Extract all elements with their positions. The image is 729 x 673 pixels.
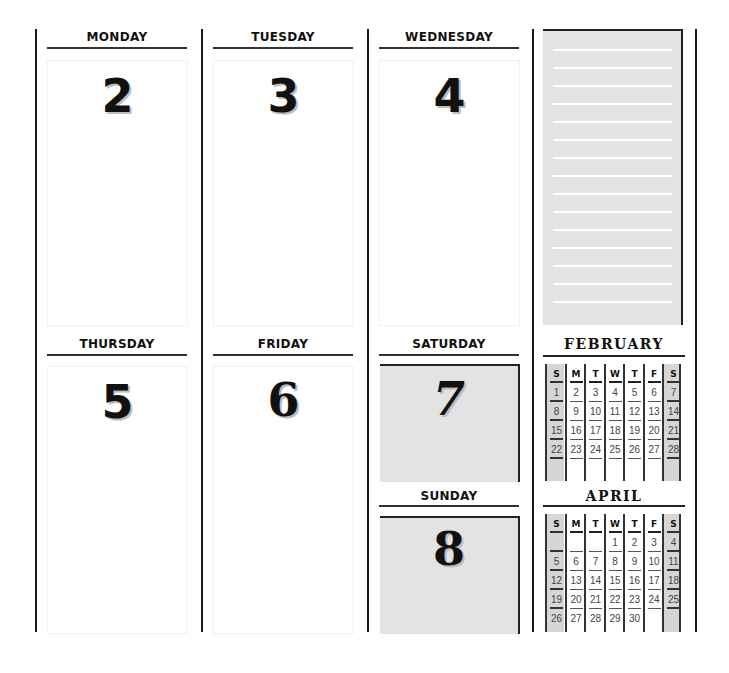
date-cell: 23 — [627, 592, 642, 611]
day-writing-area[interactable]: 4 — [379, 60, 520, 326]
date-label: 19 — [551, 594, 562, 605]
day-rule — [213, 47, 353, 49]
date-label: 19 — [629, 425, 640, 436]
date-underline — [628, 420, 641, 421]
date-underline — [589, 608, 602, 609]
month-rule — [543, 355, 685, 357]
date-cell: 1 — [608, 535, 623, 554]
notes-panel[interactable] — [543, 29, 683, 325]
month-title-april: april — [543, 482, 685, 506]
date-underline — [589, 458, 602, 459]
weekday-label: F — [651, 369, 657, 379]
notes-rule-line — [553, 49, 672, 51]
mini-calendar-column: T3101724 — [584, 364, 603, 481]
mini-calendar-column: F6132027 — [643, 364, 662, 481]
date-underline — [550, 381, 563, 383]
date-label: 2 — [632, 537, 638, 548]
mini-calendar-column: S7142128 — [662, 364, 681, 481]
date-cell: 26 — [549, 611, 564, 630]
date-underline — [648, 401, 661, 402]
weekday-header: M — [569, 516, 584, 535]
date-underline — [570, 420, 583, 421]
date-cell: 7 — [588, 554, 603, 573]
date-cell: 18 — [666, 573, 681, 592]
date-label: 17 — [590, 425, 601, 436]
date-cell — [569, 535, 584, 554]
weekday-label: F — [651, 519, 657, 529]
date-cell: 16 — [627, 573, 642, 592]
date-underline — [609, 551, 622, 552]
date-cell: 20 — [569, 592, 584, 611]
date-label: 16 — [570, 425, 581, 436]
date-underline — [589, 589, 602, 590]
date-label: 8 — [612, 556, 618, 567]
date-underline — [628, 589, 641, 590]
weekday-label: W — [610, 519, 620, 529]
date-underline — [648, 589, 661, 590]
date-underline — [609, 439, 622, 440]
day-writing-area[interactable]: 2 — [47, 60, 188, 326]
date-cell: 4 — [608, 385, 623, 404]
weekday-header: S — [666, 516, 681, 535]
date-label: 13 — [570, 575, 581, 586]
date-underline — [667, 419, 680, 421]
day-writing-area[interactable]: 6 — [213, 366, 354, 634]
weekday-label: S — [553, 519, 559, 529]
weekday-label: T — [592, 369, 598, 379]
date-underline — [667, 531, 680, 533]
day-number: 5 — [48, 375, 187, 429]
date-underline — [628, 401, 641, 402]
weekday-header: W — [608, 516, 623, 535]
date-underline — [628, 551, 641, 552]
notes-rule-line — [553, 265, 672, 267]
date-cell: 28 — [588, 611, 603, 630]
date-underline — [609, 608, 622, 609]
date-label: 9 — [632, 556, 638, 567]
date-underline — [667, 550, 680, 552]
date-label: 27 — [570, 613, 581, 624]
date-underline — [667, 607, 680, 609]
date-cell: 16 — [569, 423, 584, 442]
notes-rule-line — [553, 67, 672, 69]
weekday-header: T — [627, 516, 642, 535]
weekday-header: F — [647, 516, 662, 535]
mini-calendar-column: S5121926 — [545, 514, 564, 632]
weekend-writing-area[interactable]: 8 — [380, 516, 520, 634]
weekend-writing-area[interactable]: 7 — [380, 364, 520, 482]
weekday-header: S — [549, 516, 564, 535]
notes-rule-line — [553, 301, 672, 303]
day-writing-area[interactable]: 3 — [213, 60, 354, 326]
notes-rule-line — [553, 229, 672, 231]
date-label: 5 — [554, 556, 560, 567]
column-divider — [695, 29, 697, 632]
day-number: 4 — [380, 69, 519, 123]
date-cell: 19 — [549, 592, 564, 611]
day-rule — [379, 47, 519, 49]
notes-rule-line — [553, 283, 672, 285]
date-cell: 12 — [627, 404, 642, 423]
date-underline — [609, 458, 622, 459]
date-cell: 27 — [569, 611, 584, 630]
date-label: 14 — [668, 406, 679, 417]
date-label: 25 — [609, 444, 620, 455]
day-writing-area[interactable]: 5 — [47, 366, 188, 634]
date-label: 21 — [590, 594, 601, 605]
date-cell: 7 — [666, 385, 681, 404]
date-cell: 21 — [666, 423, 681, 442]
date-underline — [667, 588, 680, 590]
date-underline — [609, 589, 622, 590]
weekday-label: S — [670, 369, 676, 379]
date-underline — [550, 531, 563, 533]
date-label: 26 — [629, 444, 640, 455]
weekday-header: T — [588, 366, 603, 385]
date-label: 24 — [648, 594, 659, 605]
weekday-header: S — [666, 366, 681, 385]
date-label: 28 — [590, 613, 601, 624]
date-label: 3 — [651, 537, 657, 548]
date-cell: 10 — [588, 404, 603, 423]
date-underline — [589, 401, 602, 402]
date-underline — [628, 439, 641, 440]
date-underline — [628, 531, 641, 533]
mini-calendar-column: F3101724 — [643, 514, 662, 632]
date-label: 15 — [609, 575, 620, 586]
